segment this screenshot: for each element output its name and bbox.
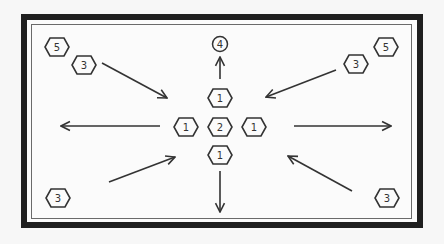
hex-center-middle: 2	[208, 118, 232, 136]
hex-center-bottom: 1	[208, 146, 232, 164]
hex-top-left-outer-label: 5	[54, 42, 60, 53]
hex-top-left-inner-label: 3	[81, 60, 87, 71]
hex-top-right-inner: 3	[344, 55, 368, 73]
hex-center-top: 1	[208, 89, 232, 107]
diagram-canvas: 1 1 2 1 1 4 5 3 5 3 3 3	[0, 0, 444, 244]
hex-bottom-left: 3	[46, 189, 70, 207]
arrow-from-bottom-left-icon	[109, 157, 175, 182]
hex-center-right-label: 1	[251, 122, 257, 133]
hex-center-top-label: 1	[217, 93, 223, 104]
hex-top-right-outer-label: 5	[383, 42, 389, 53]
hex-center-right: 1	[242, 118, 266, 136]
hex-top-right-outer: 5	[374, 38, 398, 56]
hex-top-right-inner-label: 3	[353, 59, 359, 70]
arrow-from-top-right-icon	[266, 70, 336, 97]
hex-top-left-outer: 5	[45, 38, 69, 56]
hex-center-bottom-label: 1	[217, 150, 223, 161]
circle-node-top: 4	[213, 37, 228, 52]
hex-bottom-right-label: 3	[384, 193, 390, 204]
hex-top-left-inner: 3	[72, 56, 96, 74]
hex-center-left-label: 1	[183, 122, 189, 133]
circle-node-top-label: 4	[217, 39, 223, 50]
hex-center-middle-label: 2	[217, 122, 223, 133]
hex-bottom-right: 3	[375, 189, 399, 207]
hex-center-left: 1	[174, 118, 198, 136]
arrow-from-bottom-right-icon	[288, 156, 352, 191]
hex-bottom-left-label: 3	[55, 193, 61, 204]
arrow-from-top-left-icon	[102, 63, 167, 98]
